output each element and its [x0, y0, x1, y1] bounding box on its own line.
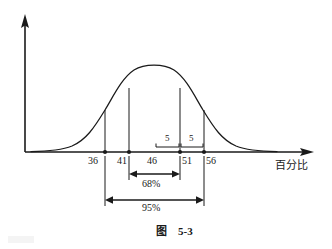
figure-caption-label: 图	[156, 226, 167, 237]
axis-dot-56	[202, 150, 206, 154]
x-tick-label-51: 51	[182, 156, 192, 166]
span-arrow-68	[129, 171, 180, 178]
x-tick-label-41: 41	[117, 156, 127, 166]
bracket-46-51	[156, 144, 179, 148]
axis-dot-41	[127, 150, 131, 154]
bell-curve-path	[31, 65, 277, 152]
x-tick-label-56: 56	[206, 156, 216, 166]
bracket-label-46-51: 5	[165, 134, 170, 143]
figure-caption-number: 5-3	[178, 226, 193, 237]
normal-distribution-figure	[0, 0, 332, 249]
axis-dot-51	[178, 150, 182, 154]
x-tick-label-46: 46	[147, 156, 157, 166]
span-label-68: 68%	[142, 179, 160, 189]
bracket-51-56	[181, 144, 203, 148]
x-tick-label-36: 36	[88, 156, 98, 166]
bracket-label-51-56: 5	[189, 134, 194, 143]
span-label-95: 95%	[142, 203, 160, 213]
axis-dot-36	[103, 150, 107, 154]
x-axis-name-label: 百分比	[275, 160, 308, 171]
